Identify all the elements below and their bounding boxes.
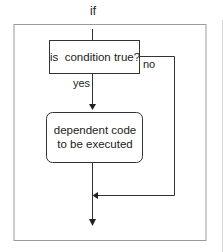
exit-arrowhead-icon xyxy=(89,219,96,226)
yes-arrowhead-icon xyxy=(89,104,96,110)
no-label: no xyxy=(143,58,155,70)
action-label-line1: dependent code xyxy=(47,123,143,137)
yes-label: yes xyxy=(73,77,90,89)
no-arrowhead-icon xyxy=(93,192,99,199)
action-label-line2: to be executed xyxy=(47,137,143,151)
diagram-title: if xyxy=(86,4,100,18)
decision-label: is condition true? xyxy=(50,50,140,64)
